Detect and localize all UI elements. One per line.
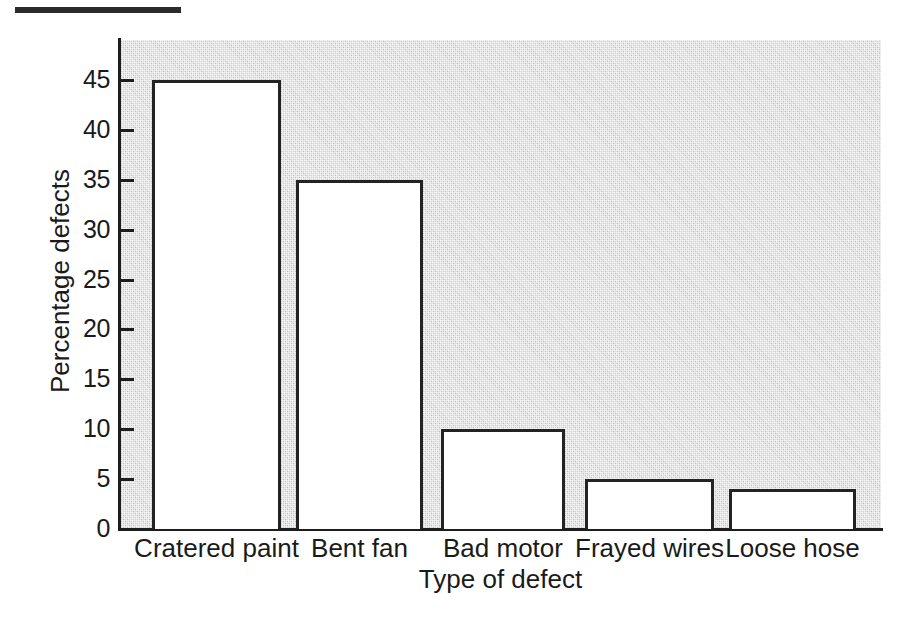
y-axis-tick-label: 45	[66, 67, 110, 92]
y-axis-tick-label: 5	[66, 466, 110, 491]
bar	[152, 80, 281, 529]
y-axis-line	[118, 38, 121, 531]
x-axis-category-label: Loose hose	[683, 533, 903, 563]
y-axis-tick	[121, 378, 134, 381]
y-axis-tick	[121, 129, 134, 132]
y-axis-tick	[121, 428, 134, 431]
y-axis-tick	[121, 528, 134, 531]
bar	[729, 489, 856, 529]
bar	[441, 429, 565, 529]
y-axis-tick	[121, 179, 134, 182]
y-axis-tick	[121, 279, 134, 282]
y-axis-tick	[121, 229, 134, 232]
x-axis-title: Type of defect	[120, 564, 881, 594]
y-axis-tick-label: 0	[66, 516, 110, 541]
y-axis-title: Percentage defects	[47, 116, 73, 446]
y-axis-tick	[121, 328, 134, 331]
bar	[296, 180, 423, 529]
y-axis-tick	[121, 478, 134, 481]
bar-chart-figure: 051015202530354045 Cratered paintBent fa…	[0, 0, 907, 636]
bar	[585, 479, 714, 529]
y-axis-tick	[121, 79, 134, 82]
